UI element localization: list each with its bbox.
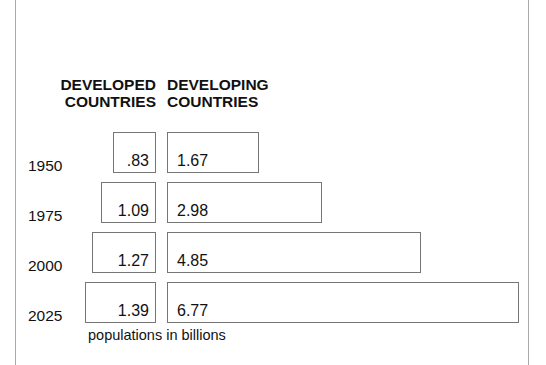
chart-caption: populations in billions — [88, 327, 226, 344]
bar-value-developed: 1.27 — [118, 251, 149, 270]
population-bar-chart-figure: DEVELOPED COUNTRIES DEVELOPING COUNTRIES… — [0, 0, 546, 365]
bar-developing-countries: 6.77 — [167, 282, 519, 323]
bar-developed-countries: 1.27 — [92, 232, 156, 273]
row-year-label: 1950 — [28, 157, 78, 175]
chart-row: 20001.274.85 — [0, 232, 546, 273]
bar-value-developed: .83 — [127, 151, 149, 170]
bar-value-developing: 6.77 — [177, 301, 208, 320]
bar-developed-countries: 1.39 — [85, 282, 156, 323]
row-year-label: 2025 — [28, 307, 78, 325]
bar-developed-countries: 1.09 — [101, 182, 156, 223]
bar-developing-countries: 1.67 — [167, 132, 259, 173]
chart-row: 20251.396.77 — [0, 282, 546, 323]
bar-developing-countries: 2.98 — [167, 182, 322, 223]
bar-value-developed: 1.39 — [118, 301, 149, 320]
row-year-label: 2000 — [28, 257, 78, 275]
chart-row: 1950.831.67 — [0, 132, 546, 173]
chart-row: 19751.092.98 — [0, 182, 546, 223]
bar-value-developing: 4.85 — [177, 251, 208, 270]
bar-value-developing: 2.98 — [177, 201, 208, 220]
chart-rows: 1950.831.6719751.092.9820001.274.8520251… — [0, 0, 546, 365]
bar-developing-countries: 4.85 — [167, 232, 421, 273]
bar-value-developed: 1.09 — [118, 201, 149, 220]
bar-developed-countries: .83 — [113, 132, 156, 173]
bar-value-developing: 1.67 — [177, 151, 208, 170]
row-year-label: 1975 — [28, 207, 78, 225]
